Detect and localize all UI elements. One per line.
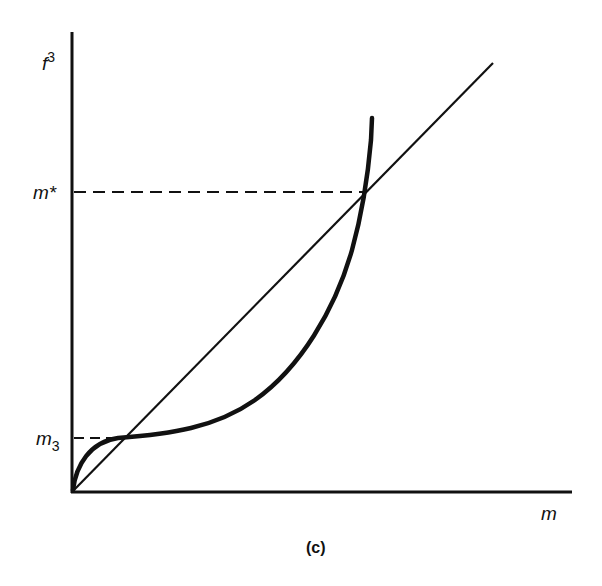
figure-caption: (c) [306, 539, 326, 556]
f3-curve [73, 118, 372, 490]
x-axis-label: m [541, 503, 557, 524]
diagram-canvas: f3 m* m3 m (c) [0, 0, 602, 586]
diagonal-line [72, 63, 493, 492]
y-axis-label: f3 [42, 49, 55, 74]
m-star-label: m* [33, 182, 57, 203]
m3-label: m3 [36, 428, 60, 454]
